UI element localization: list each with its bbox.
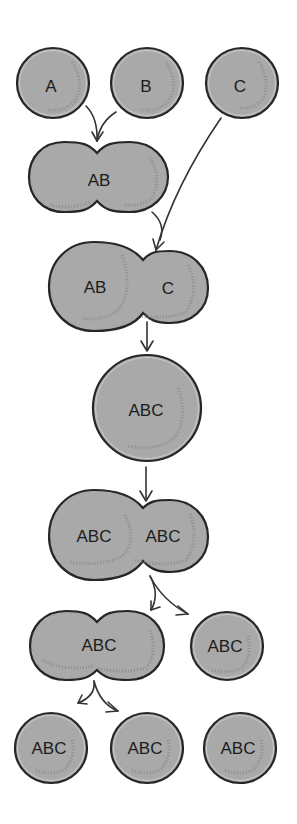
arrow-to-dividing bbox=[140, 467, 152, 501]
cell-abc-hybrid: ABC bbox=[93, 355, 201, 461]
cell-ab-c: AB C bbox=[49, 242, 208, 331]
cell-b: B bbox=[111, 48, 183, 118]
cell-abc-final-3-label: ABC bbox=[221, 739, 256, 758]
cell-ab-label: AB bbox=[88, 171, 111, 190]
cell-abc-daughter-dividing: ABC bbox=[30, 611, 164, 680]
cell-c-label: C bbox=[234, 77, 246, 96]
cell-fusion-diagram: A B C AB AB C bbox=[0, 0, 297, 824]
division-arrow-2 bbox=[78, 681, 118, 712]
cell-abc-daughter-dividing-label: ABC bbox=[82, 636, 117, 655]
cell-c: C bbox=[206, 48, 278, 118]
cell-abc-hybrid-label: ABC bbox=[129, 401, 164, 420]
cell-abc-final-2-label: ABC bbox=[128, 739, 163, 758]
cell-ab-c-label-left: AB bbox=[84, 278, 107, 297]
cell-abc-daughter-label: ABC bbox=[208, 637, 243, 656]
cell-abc-dividing-label-left: ABC bbox=[77, 527, 112, 546]
cell-abc-dividing: ABC ABC bbox=[49, 490, 208, 580]
cell-a: A bbox=[17, 48, 89, 118]
division-arrow-1 bbox=[150, 576, 188, 615]
cell-abc-final-2: ABC bbox=[111, 713, 183, 783]
diagram-canvas: A B C AB AB C bbox=[0, 0, 297, 824]
cell-abc-daughter: ABC bbox=[191, 612, 263, 680]
cell-ab-c-label-right: C bbox=[162, 279, 174, 298]
cell-b-label: B bbox=[140, 77, 151, 96]
cell-abc-final-3: ABC bbox=[204, 713, 276, 783]
cell-a-label: A bbox=[45, 77, 57, 96]
cell-abc-final-1-label: ABC bbox=[32, 739, 67, 758]
arrow-to-hybrid bbox=[141, 322, 153, 351]
cell-abc-dividing-label-right: ABC bbox=[146, 527, 181, 546]
merge-arrow-ab bbox=[86, 106, 116, 141]
cell-ab: AB bbox=[29, 142, 168, 212]
cell-abc-final-1: ABC bbox=[15, 713, 87, 783]
